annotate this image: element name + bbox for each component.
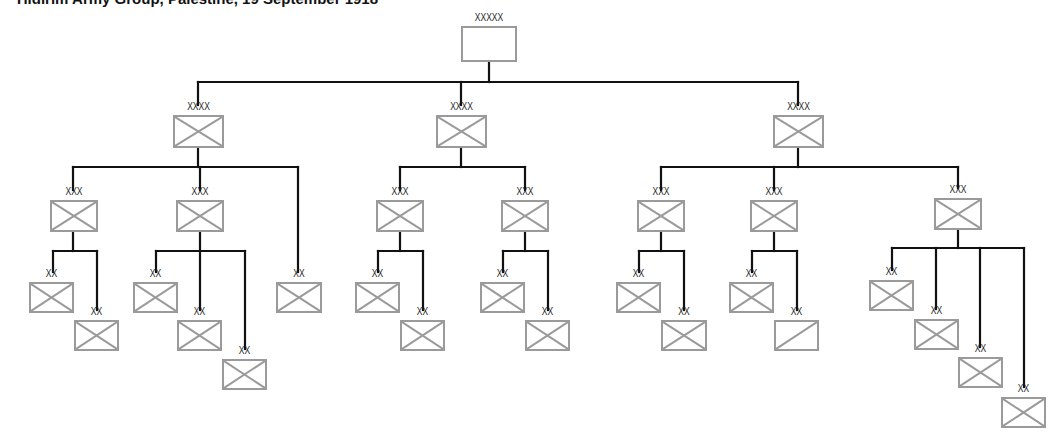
cavalry-unit-symbol xyxy=(774,320,819,351)
infantry-unit-symbol xyxy=(400,320,445,351)
echelon-marker: XX xyxy=(395,306,450,317)
echelon-marker: XX xyxy=(128,268,183,279)
infantry-cross-icon xyxy=(179,322,220,349)
echelon-marker: XX xyxy=(611,268,666,279)
infantry-unit-symbol xyxy=(616,282,661,313)
echelon-marker: XX xyxy=(172,306,227,317)
infantry-cross-icon xyxy=(76,322,117,349)
echelon-marker: XXX xyxy=(371,186,429,197)
echelon-marker: XX xyxy=(520,306,575,317)
infantry-unit-symbol xyxy=(750,200,798,232)
infantry-unit-symbol xyxy=(1001,397,1046,428)
infantry-cross-icon xyxy=(527,322,568,349)
echelon-marker: XXXX xyxy=(768,101,828,112)
infantry-cross-icon xyxy=(482,284,523,311)
echelon-marker: XXXX xyxy=(168,101,228,112)
infantry-unit-symbol xyxy=(934,198,982,230)
infantry-unit-symbol xyxy=(173,115,224,148)
infantry-unit-symbol xyxy=(501,200,549,232)
echelon-marker: XXXX xyxy=(431,101,491,112)
infantry-cross-icon xyxy=(639,202,683,230)
echelon-marker: XX xyxy=(724,268,779,279)
infantry-cross-icon xyxy=(1003,399,1044,426)
infantry-cross-icon xyxy=(503,202,547,230)
infantry-cross-icon xyxy=(936,200,980,228)
infantry-unit-symbol xyxy=(869,280,914,311)
cavalry-diagonal-icon xyxy=(776,322,817,349)
echelon-marker: XX xyxy=(953,343,1008,354)
echelon-marker: XX xyxy=(350,268,405,279)
infantry-unit-symbol xyxy=(376,200,424,232)
infantry-cross-icon xyxy=(278,284,320,311)
infantry-unit-symbol xyxy=(276,282,322,313)
infantry-cross-icon xyxy=(731,284,772,311)
infantry-cross-icon xyxy=(960,359,1001,386)
infantry-unit-symbol xyxy=(773,115,824,148)
echelon-marker: XX xyxy=(864,266,919,277)
echelon-marker: XX xyxy=(656,306,712,317)
infantry-unit-symbol xyxy=(222,359,267,390)
echelon-marker: XXX xyxy=(929,184,987,195)
echelon-marker: XX xyxy=(217,345,272,356)
echelon-marker: XXX xyxy=(632,186,690,197)
echelon-marker: XXX xyxy=(745,186,803,197)
infantry-cross-icon xyxy=(871,282,912,309)
infantry-cross-icon xyxy=(775,117,822,146)
infantry-unit-symbol xyxy=(480,282,525,313)
infantry-cross-icon xyxy=(752,202,796,230)
echelon-marker: XX xyxy=(271,268,327,279)
infantry-unit-symbol xyxy=(176,200,224,232)
infantry-cross-icon xyxy=(618,284,659,311)
echelon-marker: XXX xyxy=(171,186,229,197)
infantry-cross-icon xyxy=(178,202,222,230)
echelon-marker: XX xyxy=(24,268,79,279)
echelon-marker: XX xyxy=(69,306,124,317)
infantry-cross-icon xyxy=(224,361,265,388)
echelon-marker: XXX xyxy=(45,186,103,197)
infantry-cross-icon xyxy=(135,284,176,311)
infantry-unit-symbol xyxy=(436,115,487,148)
infantry-cross-icon xyxy=(175,117,222,146)
infantry-cross-icon xyxy=(31,284,72,311)
infantry-unit-symbol xyxy=(74,320,119,351)
infantry-cross-icon xyxy=(438,117,485,146)
infantry-unit-symbol xyxy=(661,320,707,351)
echelon-marker: XXXXX xyxy=(457,12,522,23)
infantry-unit-symbol xyxy=(355,282,400,313)
infantry-unit-symbol xyxy=(637,200,685,232)
infantry-unit-symbol xyxy=(525,320,570,351)
empty-unit-symbol xyxy=(461,26,517,62)
echelon-marker: XXX xyxy=(496,186,554,197)
infantry-cross-icon xyxy=(378,202,422,230)
echelon-marker: XX xyxy=(909,305,964,316)
infantry-unit-symbol xyxy=(177,320,222,351)
echelon-marker: XX xyxy=(769,306,824,317)
infantry-cross-icon xyxy=(402,322,443,349)
infantry-unit-symbol xyxy=(29,282,74,313)
infantry-cross-icon xyxy=(52,202,96,230)
infantry-cross-icon xyxy=(663,322,705,349)
infantry-unit-symbol xyxy=(50,200,98,232)
infantry-cross-icon xyxy=(357,284,398,311)
infantry-unit-symbol xyxy=(729,282,774,313)
infantry-cross-icon xyxy=(916,321,957,348)
echelon-marker: XX xyxy=(475,268,530,279)
echelon-marker: XX xyxy=(996,383,1051,394)
